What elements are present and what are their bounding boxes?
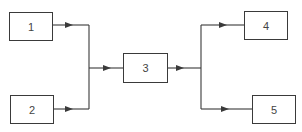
node-4: 4 xyxy=(244,11,288,40)
node-2-label: 2 xyxy=(29,104,35,116)
node-5: 5 xyxy=(252,95,296,124)
node-3: 3 xyxy=(123,53,168,83)
node-1: 1 xyxy=(9,12,53,41)
node-1-label: 1 xyxy=(28,21,34,33)
node-4-label: 4 xyxy=(263,20,269,32)
node-3-label: 3 xyxy=(142,62,148,74)
block-diagram: 1 2 3 4 5 xyxy=(0,0,302,132)
node-2: 2 xyxy=(10,95,54,124)
node-5-label: 5 xyxy=(271,104,277,116)
